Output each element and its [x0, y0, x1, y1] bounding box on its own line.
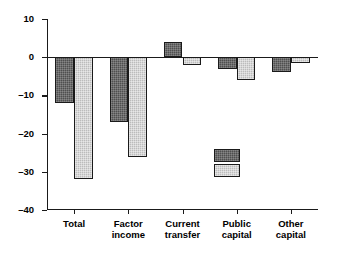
bar — [164, 42, 183, 57]
x-tick-label: Public capital — [222, 218, 252, 240]
y-tick — [42, 57, 47, 58]
bar-chart: 100–10–20–30–40 TotalFactor incomeCurren… — [0, 0, 347, 260]
x-tick — [183, 209, 184, 214]
bar — [183, 57, 202, 65]
bar — [110, 57, 129, 122]
plot-area: 100–10–20–30–40 TotalFactor incomeCurren… — [47, 19, 318, 210]
y-tick-label: –20 — [18, 129, 34, 139]
bar — [55, 57, 74, 103]
bar — [291, 57, 310, 63]
legend-swatch-1956 — [214, 149, 240, 162]
x-tick-label: Factor income — [112, 218, 145, 240]
y-tick — [42, 172, 47, 173]
x-tick — [291, 209, 292, 214]
x-tick-label: Other capital — [276, 218, 306, 240]
bar — [272, 57, 291, 72]
bar — [218, 57, 237, 68]
x-tick-label: Total — [63, 218, 85, 229]
legend-swatch-1980 — [214, 164, 240, 177]
legend: 1956 1980 — [214, 151, 235, 180]
y-tick-label: –40 — [18, 205, 34, 215]
y-tick-label: –10 — [18, 90, 34, 100]
y-axis-line — [47, 19, 48, 210]
y-tick — [42, 95, 47, 96]
legend-item-1980: 1980 — [214, 166, 235, 176]
y-tick — [42, 210, 47, 211]
bar — [128, 57, 147, 156]
y-tick — [42, 19, 47, 20]
x-tick — [74, 209, 75, 214]
x-tick — [128, 209, 129, 214]
y-tick — [42, 134, 47, 135]
bar — [74, 57, 93, 179]
y-tick-label: 0 — [29, 52, 34, 62]
x-tick — [237, 209, 238, 214]
bar — [237, 57, 256, 80]
y-tick-label: –30 — [18, 167, 34, 177]
y-tick-label: 10 — [23, 14, 34, 24]
x-tick-label: Current transfer — [165, 218, 200, 240]
legend-item-1956: 1956 — [214, 151, 235, 161]
